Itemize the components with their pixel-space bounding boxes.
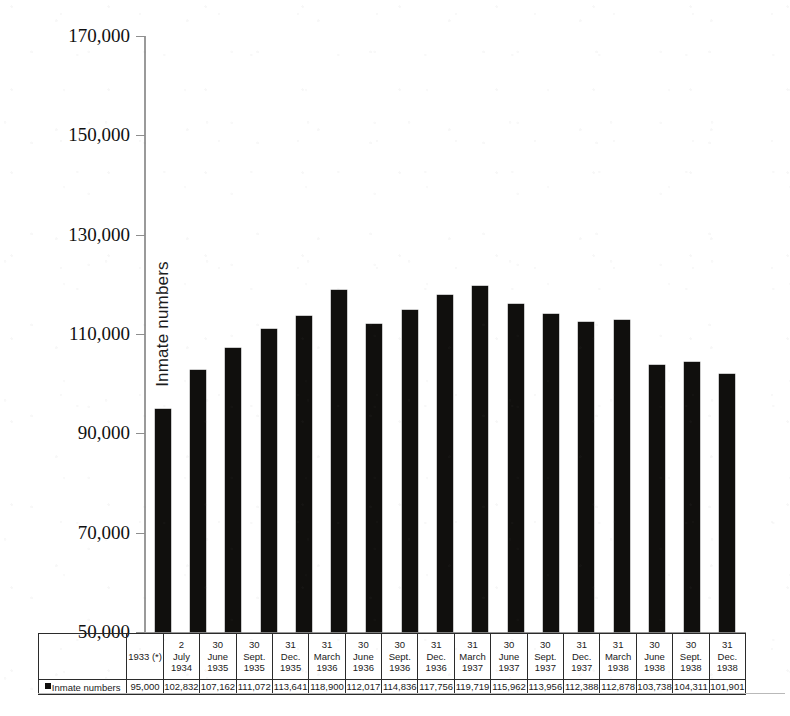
table-period-line: 30 [673, 639, 708, 651]
table-period-line: 30 [637, 639, 672, 651]
bar [684, 362, 700, 632]
bar [366, 324, 382, 632]
bar [614, 320, 630, 632]
bars-layer [145, 36, 745, 632]
y-axis-tick [136, 36, 145, 37]
bar-slot [357, 36, 392, 632]
bar [719, 374, 735, 632]
table-period-line: Dec. [564, 651, 599, 663]
bar [296, 316, 312, 632]
bar-slot [180, 36, 215, 632]
bar [402, 310, 418, 632]
table-period-line [127, 639, 162, 651]
table-period-line [127, 662, 162, 674]
table-period-header: 31March1937 [454, 634, 490, 680]
bar-slot [533, 36, 568, 632]
table-period-line: Dec. [273, 651, 308, 663]
y-axis-tick-label: 110,000 [69, 323, 130, 345]
bar-slot [392, 36, 427, 632]
table-period-line: 31 [418, 639, 453, 651]
table-period-line: June [491, 651, 526, 663]
bar [225, 348, 241, 632]
y-axis-tick [136, 533, 145, 534]
table-period-line: March [600, 651, 635, 663]
bar-slot [427, 36, 462, 632]
bar-slot [216, 36, 251, 632]
y-axis-tick-label: 170,000 [68, 25, 130, 47]
bar-slot [710, 36, 745, 632]
table-period-line: 30 [200, 639, 235, 651]
table-period-line: March [455, 651, 490, 663]
table-period-line: 1936 [418, 662, 453, 674]
bar [649, 365, 665, 632]
bar-slot [251, 36, 286, 632]
y-axis-tick-label: 70,000 [78, 522, 130, 544]
table-period-header: 1933 (*) [127, 634, 163, 680]
table-period-line: Dec. [710, 651, 745, 663]
bar-slot [463, 36, 498, 632]
table-period-line: Dec. [418, 651, 453, 663]
bar-slot [674, 36, 709, 632]
bar [437, 295, 453, 632]
table-period-header: 30June1938 [636, 634, 672, 680]
table-period-header: 30Sept.1938 [673, 634, 709, 680]
table-period-line: 1938 [673, 662, 708, 674]
table-period-line: June [637, 651, 672, 663]
table-period-line: 1936 [382, 662, 417, 674]
bar [578, 322, 594, 632]
table-period-header: 31Dec.1937 [564, 634, 600, 680]
table-period-header: 31March1936 [309, 634, 345, 680]
bar [508, 304, 524, 632]
table-period-line: 1938 [600, 662, 635, 674]
bar [155, 409, 171, 633]
y-axis-title: Inmate numbers [153, 224, 173, 424]
table-period-header: 31Dec.1936 [418, 634, 454, 680]
table-period-line: 1934 [164, 662, 199, 674]
table-period-line: 2 [164, 639, 199, 651]
table-period-line: 31 [564, 639, 599, 651]
table-underline [38, 693, 785, 694]
table-period-line: 1935 [273, 662, 308, 674]
table-period-header: 2July1934 [163, 634, 199, 680]
table-period-line: 1937 [564, 662, 599, 674]
data-table: 1933 (*) 2July193430June193530Sept.19353… [38, 633, 746, 695]
table-period-line: 31 [600, 639, 635, 651]
table-period-line: 1938 [637, 662, 672, 674]
table-period-line: July [164, 651, 199, 663]
legend-label: Inmate numbers [52, 682, 121, 693]
bar-chart-plot: Inmate numbers [145, 36, 745, 632]
table-period-line: 1936 [346, 662, 381, 674]
header-corner-cell [39, 634, 127, 680]
bar [472, 286, 488, 632]
table-period-line: 30 [491, 639, 526, 651]
y-axis-tick [136, 135, 145, 136]
table-period-line: 30 [346, 639, 381, 651]
bar-slot [321, 36, 356, 632]
table-period-line: 31 [309, 639, 344, 651]
table-period-line: 1937 [528, 662, 563, 674]
table-period-line: March [309, 651, 344, 663]
table-period-header: 31Dec.1938 [709, 634, 745, 680]
y-axis-tick [136, 334, 145, 335]
bar [543, 314, 559, 632]
y-axis-tick-label: 90,000 [78, 422, 130, 444]
bar-slot [569, 36, 604, 632]
table-period-line: Sept. [528, 651, 563, 663]
table-period-line: Sept. [673, 651, 708, 663]
y-axis-tick [136, 235, 145, 236]
table-period-line: 1937 [455, 662, 490, 674]
table-period-line: 1936 [309, 662, 344, 674]
table-period-header: 30Sept.1937 [527, 634, 563, 680]
bar-slot [286, 36, 321, 632]
table-period-header: 31March1938 [600, 634, 636, 680]
table-period-line: 30 [237, 639, 272, 651]
table-period-line: 1935 [200, 662, 235, 674]
table-period-header: 30June1936 [345, 634, 381, 680]
y-axis-tick-label: 130,000 [68, 224, 130, 246]
table-period-header: 30Sept.1935 [236, 634, 272, 680]
table-period-header: 31Dec.1935 [272, 634, 308, 680]
table-period-line: 1937 [491, 662, 526, 674]
table-period-line: 1935 [237, 662, 272, 674]
table-period-line: 1933 (*) [127, 651, 162, 663]
table-period-line: 31 [455, 639, 490, 651]
